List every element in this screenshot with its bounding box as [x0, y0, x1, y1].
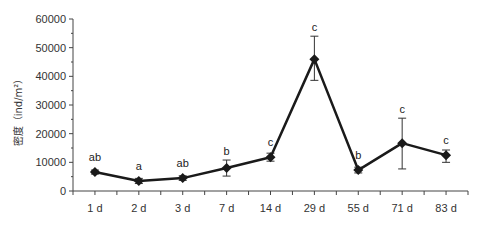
x-tick-label: 14 d	[260, 202, 281, 214]
x-tick-label: 83 d	[435, 202, 456, 214]
x-tick-label: 2 d	[131, 202, 146, 214]
x-axis: 1 d2 d3 d7 d14 d29 d55 d71 d83 d	[73, 191, 468, 214]
x-tick-label: 1 d	[87, 202, 102, 214]
x-tick-label: 71 d	[391, 202, 412, 214]
diamond-marker	[441, 150, 451, 160]
y-axis: 0100002000030000400005000060000	[35, 13, 73, 197]
significance-label: c	[443, 134, 449, 146]
y-tick-label: 50000	[35, 42, 66, 54]
significance-label: ab	[89, 151, 101, 163]
y-tick-label: 10000	[35, 156, 66, 168]
diamond-marker	[222, 163, 232, 173]
x-tick-label: 7 d	[219, 202, 234, 214]
data-markers	[90, 54, 451, 186]
density-line	[95, 59, 446, 181]
diamond-marker	[90, 167, 100, 177]
significance-label: c	[268, 136, 274, 148]
significance-label: a	[136, 160, 143, 172]
significance-label: c	[312, 21, 318, 33]
significance-labels: abaabbccbcc	[89, 21, 449, 172]
density-line-chart: 0100002000030000400005000060000 1 d2 d3 …	[0, 0, 483, 232]
y-tick-label: 0	[60, 185, 66, 197]
diamond-marker	[134, 176, 144, 186]
series-line	[95, 59, 446, 181]
y-tick-label: 40000	[35, 70, 66, 82]
y-axis-title: 密度（ind/m²）	[12, 74, 24, 147]
y-tick-label: 60000	[35, 13, 66, 25]
significance-label: b	[355, 149, 361, 161]
significance-label: c	[399, 103, 405, 115]
x-tick-label: 29 d	[304, 202, 325, 214]
x-tick-label: 55 d	[348, 202, 369, 214]
x-tick-label: 3 d	[175, 202, 190, 214]
diamond-marker	[266, 152, 276, 162]
y-tick-label: 30000	[35, 99, 66, 111]
significance-label: b	[224, 145, 230, 157]
y-tick-label: 20000	[35, 128, 66, 140]
diamond-marker	[178, 173, 188, 183]
diamond-marker	[309, 54, 319, 64]
significance-label: ab	[177, 157, 189, 169]
